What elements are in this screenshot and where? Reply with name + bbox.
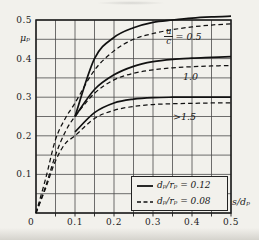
x-tick-label: 0.4	[178, 216, 206, 228]
y-tick-label: 0.4	[4, 53, 32, 65]
x-axis-title: s/dₚ	[232, 196, 259, 208]
legend-label-dashed: dₚ/rₚ = 0.08	[157, 196, 211, 207]
solid-line-swatch	[136, 181, 154, 191]
y-tick-label: 0.3	[4, 91, 32, 103]
uc-fraction-value: = 0.5	[175, 31, 201, 42]
y-tick-label: 0.1	[4, 168, 32, 180]
uc-fraction: u c	[164, 27, 173, 46]
y-axis-title: μₚ	[6, 32, 30, 44]
uc-fraction-denominator: c	[164, 37, 173, 46]
x-tick-label: 0.5	[217, 216, 245, 228]
legend-label-solid: dₚ/rₚ = 0.12	[157, 180, 211, 191]
curve-label-uc-gt-1.5: >1.5	[173, 111, 196, 122]
scanned-chart-figure: μₚ s/dₚ 00.10.20.30.40.50.10.20.30.40.5 …	[0, 0, 259, 240]
curve-label-uc-1.0: 1.0	[183, 71, 198, 82]
x-tick-label: 0	[17, 216, 45, 228]
curve-label-uc-0.5: u c = 0.5	[164, 27, 202, 46]
legend-entry-dashed: dₚ/rₚ = 0.08	[136, 194, 225, 209]
x-tick-label: 0.1	[61, 216, 89, 228]
x-tick-label: 0.3	[139, 216, 167, 228]
y-tick-label: 0.5	[4, 14, 32, 26]
x-tick-label: 0.2	[100, 216, 128, 228]
y-tick-label: 0.2	[4, 130, 32, 142]
dashed-line-swatch	[136, 197, 154, 207]
legend-box: dₚ/rₚ = 0.12 dₚ/rₚ = 0.08	[131, 176, 228, 211]
legend-entry-solid: dₚ/rₚ = 0.12	[136, 178, 225, 193]
